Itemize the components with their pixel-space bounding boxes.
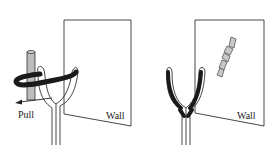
right-panel: Wall <box>167 20 264 145</box>
pull-label: Pull <box>18 109 34 120</box>
right-wall-label: Wall <box>237 110 256 121</box>
left-panel: Wall Pull <box>15 20 131 145</box>
band-remnant-left <box>168 72 181 108</box>
left-wall-label: Wall <box>106 110 125 121</box>
rod-top <box>27 51 35 54</box>
slingshot-diagram: Wall Pull Wall <box>0 0 276 150</box>
